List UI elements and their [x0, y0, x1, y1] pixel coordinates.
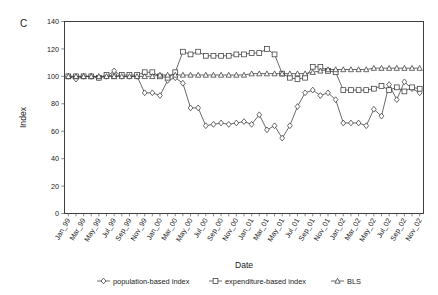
- marker-square: [234, 52, 239, 57]
- marker-square: [188, 52, 193, 57]
- index-line-chart: 020406080100120140Jan_99Mar_99May_99Jul_…: [0, 0, 438, 295]
- marker-square: [295, 77, 300, 82]
- marker-square: [349, 88, 354, 93]
- marker-square: [387, 88, 392, 93]
- marker-square: [211, 53, 216, 58]
- x-axis-title: Date: [235, 260, 253, 270]
- y-tick-label: 20: [51, 182, 59, 191]
- y-tick-label: 0: [55, 209, 59, 218]
- marker-square: [242, 52, 247, 57]
- marker-square: [394, 85, 399, 90]
- marker-square: [203, 53, 208, 58]
- marker-square: [341, 88, 346, 93]
- chart-figure: 020406080100120140Jan_99Mar_99May_99Jul_…: [0, 0, 438, 295]
- chart-legend: population-based indexexpenditure-based …: [97, 277, 361, 286]
- y-tick-label: 40: [51, 154, 59, 163]
- legend-label: expenditure-based index: [225, 277, 306, 286]
- marker-square: [371, 86, 376, 91]
- marker-square: [257, 51, 262, 56]
- marker-square: [226, 53, 231, 58]
- marker-square: [356, 88, 361, 93]
- legend-item-diamond[interactable]: population-based index: [97, 277, 190, 286]
- marker-square: [402, 89, 407, 94]
- marker-square: [417, 86, 422, 91]
- marker-square: [410, 85, 415, 90]
- legend-label: BLS: [347, 277, 361, 286]
- legend-item-square[interactable]: expenditure-based index: [209, 277, 306, 286]
- marker-square: [213, 279, 218, 284]
- y-tick-label: 60: [51, 127, 59, 136]
- marker-square: [379, 84, 384, 89]
- marker-square: [310, 64, 315, 69]
- marker-square: [272, 52, 277, 57]
- marker-square: [249, 51, 254, 56]
- y-tick-label: 140: [47, 17, 59, 26]
- panel-label: C: [20, 18, 27, 29]
- y-tick-label: 100: [47, 72, 59, 81]
- legend-item-triangle[interactable]: BLS: [331, 277, 361, 286]
- y-axis-title: Index: [18, 106, 28, 128]
- marker-square: [180, 49, 185, 54]
- y-tick-label: 120: [47, 45, 59, 54]
- legend-label: population-based index: [113, 277, 190, 286]
- marker-square: [196, 49, 201, 54]
- marker-diamond: [101, 278, 106, 284]
- marker-square: [364, 88, 369, 93]
- marker-square: [265, 47, 270, 52]
- marker-square: [219, 53, 224, 58]
- y-tick-label: 80: [51, 99, 59, 108]
